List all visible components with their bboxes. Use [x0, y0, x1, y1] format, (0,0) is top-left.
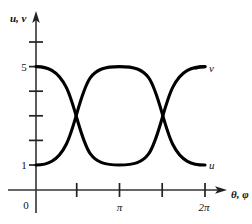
x-axis-label: θ, φ	[231, 188, 249, 200]
origin-label: 0	[23, 199, 29, 211]
figure-container: u, v θ, φ 0 5 1 π 2π v u	[0, 0, 252, 224]
y-axis-label: u, v	[10, 12, 27, 24]
curve-u-tail	[196, 67, 205, 68]
curve-label-u: u	[209, 159, 215, 171]
x-tick-label-pi: π	[117, 201, 123, 213]
sinusoid-plot: u, v θ, φ 0 5 1 π 2π v u	[0, 0, 252, 224]
curve-label-v: v	[209, 62, 214, 74]
y-tick-label-1: 1	[21, 159, 27, 171]
y-tick-label-5: 5	[21, 61, 27, 73]
x-tick-label-2pi: 2π	[198, 201, 210, 213]
